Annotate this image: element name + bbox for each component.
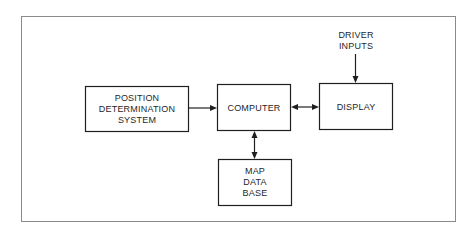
arrow-computer-map	[252, 131, 258, 159]
arrowhead-right	[312, 104, 319, 110]
arrowhead-down	[252, 152, 258, 159]
driver-inputs-line-2: INPUTS	[339, 41, 373, 51]
map-label-line-3: BASE	[243, 188, 268, 198]
display-label: DISPLAY	[337, 102, 376, 112]
arrow-computer-display	[291, 104, 319, 110]
arrow-driver-inputs-to-display	[353, 54, 359, 83]
position-label-line-2: DETERMINATION	[99, 104, 175, 114]
map-label-line-1: MAP	[245, 166, 265, 176]
driver-inputs-line-1: DRIVER	[338, 30, 374, 40]
block-diagram: POSITION DETERMINATION SYSTEM COMPUTER D…	[0, 0, 475, 235]
arrowhead-up	[252, 131, 258, 138]
display-block: DISPLAY	[320, 84, 393, 130]
position-determination-block: POSITION DETERMINATION SYSTEM	[86, 87, 189, 132]
computer-label: COMPUTER	[227, 103, 280, 113]
map-label-line-2: DATA	[243, 177, 266, 187]
computer-block: COMPUTER	[218, 85, 291, 131]
position-label-line-3: SYSTEM	[118, 115, 156, 125]
arrowhead-right	[210, 105, 217, 111]
map-data-base-block: MAP DATA BASE	[219, 160, 292, 206]
arrowhead-down	[353, 76, 359, 83]
arrowhead-left	[291, 104, 298, 110]
position-label-line-1: POSITION	[115, 93, 160, 103]
arrow-position-to-computer	[189, 105, 218, 111]
driver-inputs-label: DRIVER INPUTS	[338, 30, 374, 51]
